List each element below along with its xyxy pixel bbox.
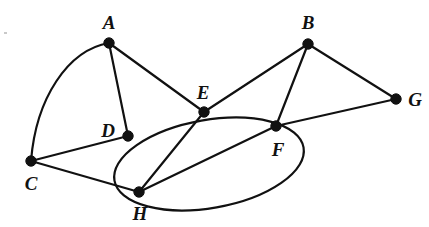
vertex-dot-c — [26, 156, 36, 166]
vertex-label-d: D — [101, 121, 115, 140]
edge-h-f — [139, 126, 276, 192]
vertex-label-f: F — [272, 140, 285, 159]
edge-e-b — [204, 44, 308, 112]
vertex-label-e: E — [197, 83, 210, 102]
vertex-dot-b — [303, 39, 313, 49]
vertex-dot-a — [104, 38, 114, 48]
vertex-dot-f — [271, 121, 281, 131]
edge-f-g — [276, 99, 396, 126]
edge-c-h — [31, 161, 139, 192]
edge-b-g — [308, 44, 396, 99]
vertex-label-c: C — [25, 174, 38, 193]
vertex-dot-h — [134, 187, 144, 197]
edge-b-f — [276, 44, 308, 126]
vertex-dot-e — [199, 107, 209, 117]
edge-a-e — [109, 43, 204, 112]
graph-canvas — [0, 0, 429, 227]
edge-e-h — [139, 112, 204, 192]
vertex-dot-g — [391, 94, 401, 104]
vertex-label-h: H — [133, 204, 148, 223]
vertex-label-b: B — [302, 13, 315, 32]
graph-figure: A B C D E F G H — [0, 0, 429, 227]
vertex-dot-d — [123, 131, 133, 141]
vertex-label-g: G — [408, 90, 422, 109]
vertex-label-a: A — [103, 13, 116, 32]
